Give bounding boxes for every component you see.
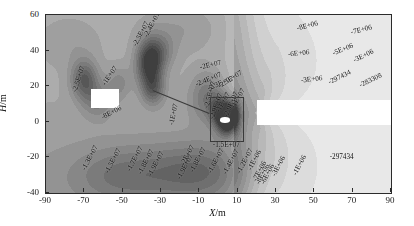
x-axis-tick bbox=[390, 188, 391, 192]
x-axis-tick bbox=[198, 188, 199, 192]
x-axis-title-unit: /m bbox=[215, 207, 226, 218]
x-axis-tick bbox=[237, 188, 238, 192]
x-axis-title: X/m bbox=[45, 207, 390, 218]
x-axis-tick-label: -70 bbox=[77, 195, 89, 205]
y-axis-tick-label: 0 bbox=[0, 116, 39, 126]
y-axis-tick-label: -20 bbox=[0, 151, 39, 161]
y-axis-tick bbox=[45, 14, 49, 15]
y-axis-tick-label: 40 bbox=[0, 45, 39, 55]
plot-area: -2.5E+07-1E+07-8E+06-2.5E+07-2.4E+07-1E+… bbox=[45, 14, 392, 194]
x-axis-tick-label: 90 bbox=[386, 195, 395, 205]
y-axis-tick bbox=[45, 85, 49, 86]
y-axis-tick bbox=[45, 192, 49, 193]
x-axis-tick-label: -10 bbox=[192, 195, 204, 205]
x-axis-tick bbox=[122, 188, 123, 192]
y-axis-title-unit: /m bbox=[0, 94, 8, 105]
x-axis-tick-label: 50 bbox=[309, 195, 318, 205]
y-axis-tick bbox=[45, 156, 49, 157]
y-axis-title-symbol: H bbox=[0, 105, 8, 112]
y-axis-tick bbox=[45, 50, 49, 51]
y-axis-tick-label: -40 bbox=[0, 187, 39, 197]
y-axis-tick-label: 20 bbox=[0, 80, 39, 90]
x-axis-tick bbox=[160, 188, 161, 192]
x-axis-tick-label: -90 bbox=[39, 195, 51, 205]
x-axis-tick-label: -30 bbox=[154, 195, 166, 205]
x-axis-tick-label: 10 bbox=[232, 195, 241, 205]
y-axis-title: H/m bbox=[0, 94, 8, 112]
x-axis-tick bbox=[83, 188, 84, 192]
x-axis-tick bbox=[313, 188, 314, 192]
contour-figure: -2.5E+07-1E+07-8E+06-2.5E+07-2.4E+07-1E+… bbox=[0, 0, 414, 226]
x-axis-tick-label: -50 bbox=[116, 195, 128, 205]
y-axis-tick bbox=[45, 121, 49, 122]
right-white-band bbox=[257, 100, 391, 125]
x-axis-tick bbox=[275, 188, 276, 192]
x-axis-tick bbox=[352, 188, 353, 192]
left-white-rectangle bbox=[91, 89, 119, 109]
x-axis-tick-label: 70 bbox=[347, 195, 356, 205]
inset-zoom-box bbox=[210, 97, 244, 142]
y-axis-tick-label: 60 bbox=[0, 9, 39, 19]
x-axis-tick-label: 30 bbox=[271, 195, 280, 205]
